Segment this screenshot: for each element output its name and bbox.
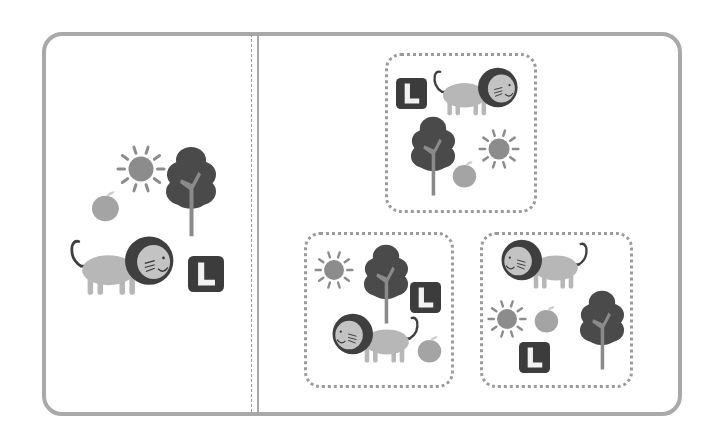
sun-icon — [487, 299, 527, 339]
apple-icon — [416, 335, 444, 363]
apple-icon — [90, 190, 122, 222]
tree-icon — [411, 116, 455, 200]
tree-icon — [580, 290, 624, 374]
apple-icon — [451, 160, 479, 188]
sun-icon — [478, 128, 520, 170]
lion-icon — [70, 232, 180, 300]
tree-icon — [166, 146, 216, 241]
letter-l-tile-icon — [519, 342, 550, 373]
apple-icon — [533, 305, 561, 333]
lion-icon — [433, 64, 523, 120]
fold-line-dashed — [251, 34, 252, 412]
letter-l-tile-icon — [188, 256, 224, 292]
lion-icon — [496, 236, 588, 293]
panel-divider — [257, 34, 259, 412]
sun-icon — [116, 144, 166, 194]
letter-l-tile-icon — [396, 78, 427, 109]
letter-l-tile-icon — [410, 282, 441, 313]
sun-icon — [314, 250, 354, 290]
lion-icon — [327, 310, 419, 367]
